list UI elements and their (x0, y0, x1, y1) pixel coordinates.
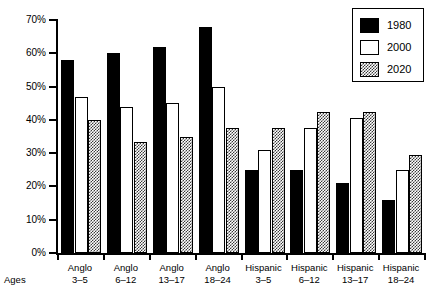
y-axis-tick-label: 50% (6, 82, 46, 92)
bar-2000 (75, 97, 88, 253)
bar-2020 (226, 128, 239, 253)
x-axis-tick (424, 253, 426, 260)
x-axis-tick (241, 253, 243, 260)
bar-1980 (153, 47, 166, 253)
x-axis-tick (332, 253, 334, 260)
category-label-line1: Hispanic (373, 262, 429, 274)
bar-1980 (199, 27, 212, 253)
bar-2000 (166, 103, 179, 253)
bar-2020 (180, 137, 193, 254)
bar-group (195, 20, 241, 253)
bar-chart: 0%10%20%30%40%50%60%70% Ages Anglo3–5Ang… (0, 0, 432, 297)
x-axis-tick (57, 253, 59, 260)
category-label-line2: 18–24 (373, 274, 429, 286)
x-axis-tick (149, 253, 151, 260)
legend-swatch-1980 (360, 18, 379, 33)
category-label: Hispanic18–24 (373, 262, 429, 285)
x-axis-tick (286, 253, 288, 260)
y-axis-labels: 0%10%20%30%40%50%60%70% (0, 0, 46, 297)
bar-1980 (290, 170, 303, 253)
y-axis-tick-label: 20% (6, 181, 46, 191)
legend-item: 2020 (360, 59, 423, 79)
bar-2000 (212, 87, 225, 253)
category-labels: Anglo3–5Anglo6–12Anglo13–17Anglo18–24His… (0, 262, 432, 297)
bar-2000 (120, 107, 133, 253)
bar-2020 (317, 112, 330, 253)
bar-2000 (304, 128, 317, 253)
y-axis-tick-label: 30% (6, 148, 46, 158)
legend-label-2000: 2000 (387, 42, 411, 53)
y-axis-tick-label: 10% (6, 215, 46, 225)
bar-group (286, 20, 332, 253)
bar-2020 (134, 142, 147, 254)
y-axis-tick-label: 40% (6, 115, 46, 125)
bar-1980 (245, 170, 258, 253)
bar-1980 (61, 60, 74, 253)
legend-item: 2000 (360, 37, 423, 57)
bar-2000 (258, 150, 271, 253)
y-axis-tick-label: 0% (6, 248, 46, 258)
bar-group (57, 20, 103, 253)
legend-swatch-2000 (360, 40, 379, 55)
bar-2020 (409, 155, 422, 253)
bar-1980 (382, 200, 395, 253)
legend-label-2020: 2020 (387, 64, 411, 75)
bar-1980 (336, 183, 349, 253)
legend-swatch-2020 (360, 62, 379, 77)
bar-2020 (272, 128, 285, 253)
legend-item: 1980 (360, 15, 423, 35)
y-axis-tick-label: 60% (6, 48, 46, 58)
legend: 198020002020 (352, 8, 424, 82)
bar-2020 (88, 120, 101, 253)
y-axis-tick-label: 70% (6, 15, 46, 25)
legend-label-1980: 1980 (387, 20, 411, 31)
x-axis-tick (195, 253, 197, 260)
x-axis-tick (103, 253, 105, 260)
bar-group (241, 20, 287, 253)
x-axis-tick (378, 253, 380, 260)
bar-2000 (350, 118, 363, 253)
bar-2000 (396, 170, 409, 253)
bar-1980 (107, 53, 120, 253)
bar-group (149, 20, 195, 253)
bar-2020 (363, 112, 376, 253)
bar-group (103, 20, 149, 253)
